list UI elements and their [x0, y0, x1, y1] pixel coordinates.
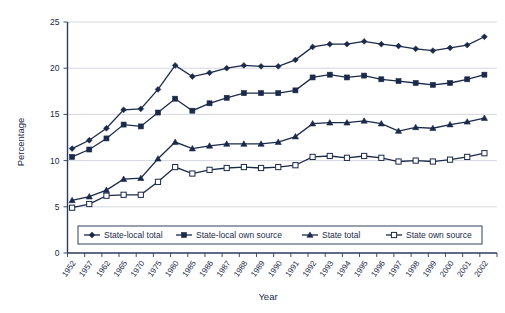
- chart-legend: State-local totalState-local own sourceS…: [78, 226, 482, 244]
- data-point: [87, 147, 92, 152]
- data-point: [258, 165, 263, 170]
- data-point: [241, 91, 246, 96]
- data-point: [310, 154, 315, 159]
- legend-marker-2: [182, 233, 187, 238]
- y-tick-label: 0: [55, 248, 60, 258]
- y-tick-label: 25: [50, 17, 60, 27]
- y-axis-title: Percentage: [15, 118, 26, 167]
- y-tick-label: 20: [50, 63, 60, 73]
- data-point: [344, 155, 349, 160]
- legend-label-4: State own source: [406, 230, 472, 240]
- y-tick-label: 5: [55, 202, 60, 212]
- data-point: [173, 96, 178, 101]
- data-point: [190, 171, 195, 176]
- data-point: [430, 82, 435, 87]
- y-tick-label: 15: [50, 109, 60, 119]
- data-point: [104, 136, 109, 141]
- data-point: [396, 79, 401, 84]
- data-point: [413, 158, 418, 163]
- data-point: [327, 72, 332, 77]
- data-point: [310, 75, 315, 80]
- data-point: [104, 193, 109, 198]
- data-point: [259, 91, 264, 96]
- data-point: [362, 73, 367, 78]
- data-point: [413, 80, 418, 85]
- data-point: [448, 80, 453, 85]
- data-point: [121, 122, 126, 127]
- data-point: [69, 205, 74, 210]
- x-axis-title: Year: [258, 291, 277, 302]
- data-point: [379, 77, 384, 82]
- line-chart-svg: 0510152025 19521957196219651970197519801…: [0, 0, 505, 313]
- chart-figure: 0510152025 19521957196219651970197519801…: [0, 0, 505, 313]
- data-point: [293, 88, 298, 93]
- data-point: [224, 165, 229, 170]
- data-point: [70, 154, 75, 159]
- data-point: [207, 167, 212, 172]
- legend-label-1: State-local total: [104, 230, 163, 240]
- data-point: [482, 151, 487, 156]
- data-point: [155, 110, 160, 115]
- data-point: [293, 163, 298, 168]
- data-point: [465, 77, 470, 82]
- data-point: [138, 124, 143, 129]
- data-point: [379, 155, 384, 160]
- data-point: [121, 192, 126, 197]
- data-point: [190, 108, 195, 113]
- legend-marker-4: [391, 232, 396, 237]
- data-point: [396, 159, 401, 164]
- data-point: [276, 91, 281, 96]
- data-point: [276, 164, 281, 169]
- data-point: [447, 157, 452, 162]
- data-point: [173, 164, 178, 169]
- data-point: [138, 192, 143, 197]
- y-tick-label: 10: [50, 156, 60, 166]
- data-point: [344, 75, 349, 80]
- data-point: [430, 159, 435, 164]
- data-point: [362, 153, 367, 158]
- data-point: [155, 179, 160, 184]
- data-point: [327, 153, 332, 158]
- data-point: [465, 154, 470, 159]
- data-point: [241, 164, 246, 169]
- data-point: [224, 95, 229, 100]
- data-point: [87, 201, 92, 206]
- legend-label-2: State-local own source: [196, 230, 282, 240]
- legend-label-3: State total: [322, 230, 360, 240]
- data-point: [482, 72, 487, 77]
- data-point: [207, 101, 212, 106]
